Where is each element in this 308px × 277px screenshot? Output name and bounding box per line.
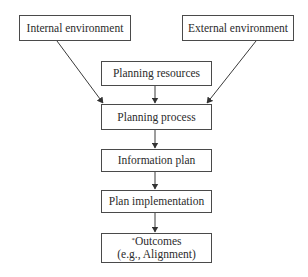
planning-process-box: Planning process xyxy=(101,104,212,130)
internal-environment-box: Internal environment xyxy=(19,15,131,41)
outcomes-title: *Outcomes xyxy=(131,235,181,248)
internal-environment-label: Internal environment xyxy=(27,22,124,35)
asterisk-marker: * xyxy=(131,236,135,244)
planning-resources-box: Planning resources xyxy=(101,61,212,86)
arrow-external-to-process xyxy=(207,41,256,103)
plan-implementation-box: Plan implementation xyxy=(101,190,212,213)
information-plan-label: Information plan xyxy=(118,154,196,167)
arrow-internal-to-process xyxy=(57,41,103,103)
outcomes-example: (e.g., Alignment) xyxy=(117,248,196,261)
information-plan-box: Information plan xyxy=(101,149,212,172)
planning-resources-label: Planning resources xyxy=(113,67,200,80)
external-environment-box: External environment xyxy=(182,15,294,41)
outcomes-box: *Outcomes (e.g., Alignment) xyxy=(101,233,212,263)
planning-process-label: Planning process xyxy=(117,111,195,124)
outcomes-label: Outcomes xyxy=(135,235,182,247)
plan-implementation-label: Plan implementation xyxy=(109,195,205,208)
external-environment-label: External environment xyxy=(188,22,288,35)
